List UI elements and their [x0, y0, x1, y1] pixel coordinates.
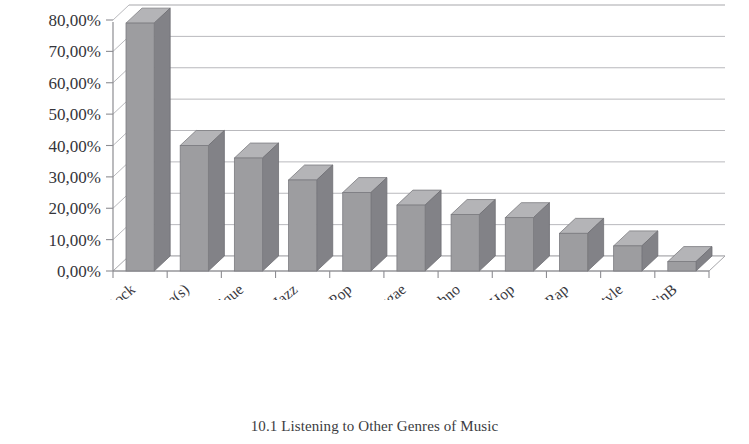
x-category-label: Reggae: [362, 280, 409, 300]
y-tick-label: 10,00%: [49, 231, 101, 250]
x-category-label: Rap: [541, 280, 571, 300]
y-tick-label: 80,00%: [49, 11, 101, 30]
bar-front-face: [505, 218, 533, 271]
y-tick-label: 0,00%: [57, 262, 101, 281]
chart-area: 0,00%10,00%20,00%30,00%40,00%50,00%60,00…: [0, 0, 749, 300]
bar: [126, 8, 170, 271]
figure-caption: 10.1 Listening to Other Genres of Music: [0, 418, 749, 435]
x-axis-category-labels: RockAutre(s)ClassiqueJazzPopReggaeTechno…: [102, 280, 680, 300]
bar: [234, 143, 278, 271]
x-category-label: Hip Hop: [465, 280, 517, 300]
bar-front-face: [559, 233, 587, 271]
x-category-label: R'nB: [645, 280, 680, 300]
x-category-label: Autre(s): [142, 280, 193, 300]
y-tick-label: 60,00%: [49, 74, 101, 93]
bar-front-face: [343, 193, 371, 271]
x-axis-tickmarks: [113, 271, 709, 278]
bar-front-face: [234, 158, 262, 271]
bar: [505, 203, 549, 271]
y-axis-labels: 0,00%10,00%20,00%30,00%40,00%50,00%60,00…: [49, 11, 101, 281]
bar: [397, 190, 441, 271]
x-category-label: Techno: [417, 280, 463, 300]
bar-front-face: [614, 246, 642, 271]
bar-front-face: [126, 23, 154, 271]
x-category-label: Classique: [189, 280, 246, 300]
bar-side-face: [371, 178, 387, 271]
bar-side-face: [208, 131, 224, 272]
bar-front-face: [397, 205, 425, 271]
x-category-label: Jazz: [269, 280, 300, 300]
bar-front-face: [289, 180, 317, 271]
x-category-label: Pop: [325, 280, 355, 300]
bars-group: [126, 8, 712, 271]
y-tick-label: 70,00%: [49, 42, 101, 61]
bar-front-face: [180, 146, 208, 272]
bar-side-face: [154, 8, 170, 271]
bar: [289, 165, 333, 271]
bar: [343, 178, 387, 271]
x-category-label: Rock: [102, 280, 138, 300]
bar-side-face: [317, 165, 333, 271]
y-tick-label: 50,00%: [49, 105, 101, 124]
y-tick-label: 30,00%: [49, 168, 101, 187]
y-tick-label: 20,00%: [49, 199, 101, 218]
figure-container: 0,00%10,00%20,00%30,00%40,00%50,00%60,00…: [0, 0, 749, 444]
bar: [451, 200, 495, 271]
bar-front-face: [451, 215, 479, 271]
gridline-depth-connector: [113, 5, 129, 20]
bar-front-face: [668, 262, 696, 271]
y-axis-tickmarks: [106, 20, 113, 271]
y-tick-label: 40,00%: [49, 137, 101, 156]
bar-chart-3d: 0,00%10,00%20,00%30,00%40,00%50,00%60,00…: [0, 0, 749, 300]
bar: [180, 131, 224, 272]
bar-side-face: [263, 143, 279, 271]
